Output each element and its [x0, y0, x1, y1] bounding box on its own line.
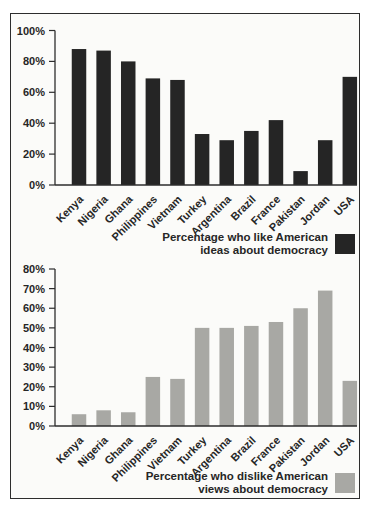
figure-canvas: 0%20%40%60%80%100%KenyaNigeriaGhanaPhili… — [0, 0, 372, 513]
svg-text:20%: 20% — [23, 148, 45, 160]
chart-frame: 0%20%40%60%80%100%KenyaNigeriaGhanaPhili… — [10, 13, 360, 499]
dislike-legend-line1: Percentage who dislike American — [146, 470, 328, 483]
svg-text:40%: 40% — [23, 342, 45, 354]
like-democracy-legend: Percentage who like American ideas about… — [162, 231, 355, 257]
svg-text:100%: 100% — [17, 25, 45, 37]
like-legend-line2: ideas about democracy — [162, 244, 328, 257]
like-legend-line1: Percentage who like American — [162, 231, 328, 244]
svg-text:40%: 40% — [23, 117, 45, 129]
svg-text:0%: 0% — [29, 420, 45, 432]
svg-text:30%: 30% — [23, 361, 45, 373]
svg-text:USA: USA — [331, 193, 356, 218]
dislike-legend-label: Percentage who dislike American views ab… — [146, 470, 328, 496]
like-democracy-bar-chart: 0%20%40%60%80%100%KenyaNigeriaGhanaPhili… — [11, 14, 359, 259]
like-legend-swatch-icon — [335, 234, 355, 254]
svg-text:70%: 70% — [23, 283, 45, 295]
svg-text:60%: 60% — [23, 86, 45, 98]
like-legend-label: Percentage who like American ideas about… — [162, 231, 328, 257]
svg-text:10%: 10% — [23, 400, 45, 412]
dislike-democracy-bar-chart: 0%10%20%30%40%50%60%70%80%KenyaNigeriaGh… — [11, 261, 359, 497]
svg-text:80%: 80% — [23, 263, 45, 275]
svg-text:20%: 20% — [23, 381, 45, 393]
svg-text:50%: 50% — [23, 322, 45, 334]
dislike-democracy-legend: Percentage who dislike American views ab… — [146, 470, 355, 496]
svg-text:80%: 80% — [23, 55, 45, 67]
svg-text:60%: 60% — [23, 302, 45, 314]
svg-text:0%: 0% — [29, 179, 45, 191]
svg-text:USA: USA — [331, 434, 356, 459]
dislike-legend-swatch-icon — [335, 473, 355, 493]
dislike-legend-line2: views about democracy — [146, 483, 328, 496]
